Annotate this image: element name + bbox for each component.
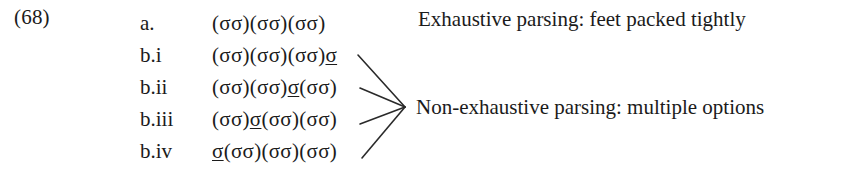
brace-line [360,88,405,107]
list-item: b.i (σσ)(σσ)(σσ)σ [0,39,844,71]
row-label: b.i [140,39,162,71]
parse-prefix: (σσ)(σσ) [212,75,288,99]
parse-prefix: (σσ) [212,107,250,131]
list-item: b.iv σ(σσ)(σσ)(σσ) [0,135,844,167]
example-block: (68) a. (σσ)(σσ)(σσ) b.i (σσ)(σσ)(σσ)σ b… [0,0,844,187]
row-label: b.iii [140,103,173,135]
row-parse: (σσ)σ(σσ)(σσ) [212,103,337,135]
brace-line [358,55,405,107]
parse-prefix: (σσ)(σσ)(σσ) [212,11,325,35]
parse-suffix: (σσ)(σσ) [261,107,337,131]
row-label: b.iv [140,135,172,167]
parse-suffix: (σσ)(σσ)(σσ) [224,139,337,163]
row-parse: σ(σσ)(σσ)(σσ) [212,135,337,167]
stray-syllable: σ [288,75,300,99]
stray-syllable: σ [325,43,337,67]
row-parse: (σσ)(σσ)(σσ) [212,7,325,39]
stray-syllable: σ [212,139,224,163]
row-parse: (σσ)(σσ)(σσ)σ [212,39,337,71]
annotation-non-exhaustive: Non-exhaustive parsing: multiple options [416,97,764,118]
row-parse: (σσ)(σσ)σ(σσ) [212,71,337,103]
row-label: a. [140,7,155,39]
annotation-exhaustive: Exhaustive parsing: feet packed tightly [418,9,746,30]
stray-syllable: σ [250,107,262,131]
converging-brace-icon [350,45,420,170]
row-label: b.ii [140,71,167,103]
parse-suffix: (σσ) [299,75,337,99]
parse-prefix: (σσ)(σσ)(σσ) [212,43,325,67]
